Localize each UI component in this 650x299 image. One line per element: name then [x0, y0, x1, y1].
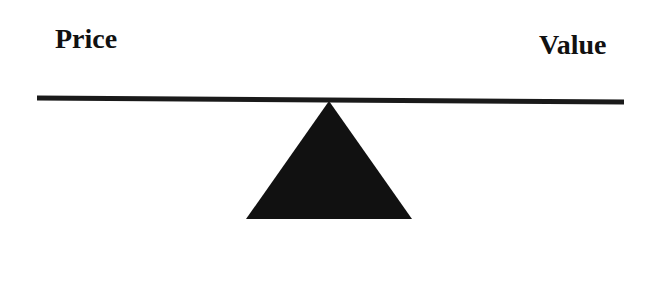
value-label: Value — [539, 31, 606, 59]
balance-diagram: Price Value — [0, 0, 650, 299]
balance-beam — [37, 98, 624, 102]
price-label: Price — [55, 25, 117, 53]
fulcrum-triangle — [246, 101, 412, 219]
